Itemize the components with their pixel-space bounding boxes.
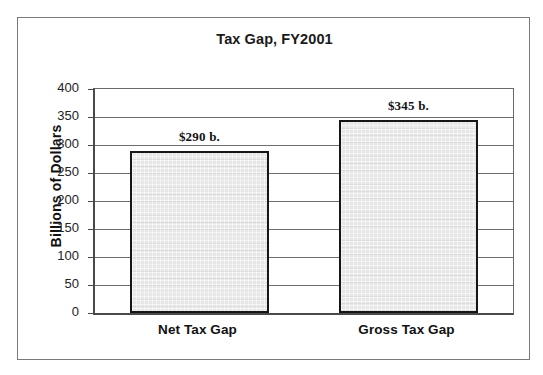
y-axis-tick [88, 173, 94, 174]
y-axis-tick [88, 89, 94, 90]
y-axis-tick-label: 300 [19, 137, 79, 150]
chart-title: Tax Gap, FY2001 [18, 31, 531, 47]
y-axis-tick-label: 250 [19, 165, 79, 178]
y-axis-tick [88, 117, 94, 118]
y-axis-tick-label: 400 [19, 81, 79, 94]
y-axis-tick-label: 0 [19, 305, 79, 318]
y-axis-tick-label: 200 [19, 193, 79, 206]
bar-value-label-net-tax-gap: $290 b. [130, 129, 269, 145]
y-axis-tick [88, 229, 94, 230]
bar-value-label-gross-tax-gap: $345 b. [339, 98, 478, 114]
y-axis-tick [88, 201, 94, 202]
y-axis-tick-label: 150 [19, 221, 79, 234]
x-axis-category-label-net-tax-gap: Net Tax Gap [128, 322, 267, 337]
y-axis-tick [88, 257, 94, 258]
y-gridline [95, 117, 513, 118]
x-axis-category-label-gross-tax-gap: Gross Tax Gap [337, 322, 476, 337]
y-axis-tick [88, 313, 94, 314]
plot-area: 400350300250200150100500$290 b.$345 b. [93, 88, 514, 315]
y-axis-tick [88, 285, 94, 286]
bar-gross-tax-gap[interactable] [339, 120, 478, 313]
y-axis-tick [88, 145, 94, 146]
chart-figure-frame: Tax Gap, FY2001 Billions of Dollars 4003… [17, 17, 530, 360]
y-axis-tick-label: 350 [19, 109, 79, 122]
y-axis-tick-label: 50 [19, 277, 79, 290]
bar-net-tax-gap[interactable] [130, 151, 269, 313]
y-axis-tick-label: 100 [19, 249, 79, 262]
